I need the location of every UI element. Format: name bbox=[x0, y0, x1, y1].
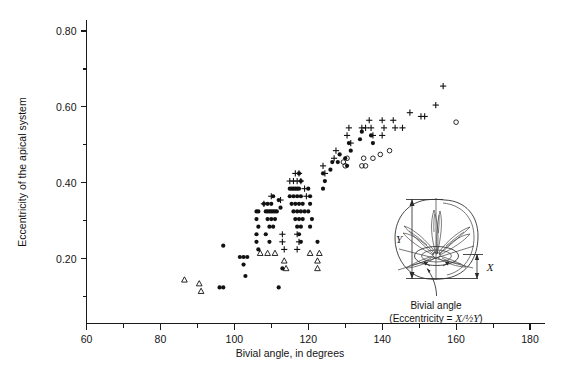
data-point-filled-circle bbox=[310, 217, 314, 221]
data-point-filled-circle bbox=[297, 202, 301, 206]
data-point-filled-circle bbox=[288, 194, 292, 198]
inset-x-label: X bbox=[486, 261, 495, 273]
data-point-filled-circle bbox=[256, 209, 260, 213]
chart-background bbox=[0, 0, 571, 375]
scatter-plot-figure: 6080100120140160180 0.200.400.600.80 Biv… bbox=[0, 0, 571, 375]
data-point-filled-circle bbox=[301, 202, 305, 206]
data-point-filled-circle bbox=[306, 209, 310, 213]
inset-caption-line1: Bivial angle bbox=[410, 300, 462, 311]
y-tick-label: 0.80 bbox=[56, 25, 77, 37]
y-tick-label: 0.20 bbox=[56, 253, 77, 265]
data-point-filled-circle bbox=[254, 217, 258, 221]
data-point-filled-circle bbox=[299, 194, 303, 198]
data-point-filled-circle bbox=[278, 206, 282, 210]
data-point-filled-circle bbox=[275, 209, 279, 213]
data-point-filled-circle bbox=[295, 209, 299, 213]
data-point-filled-circle bbox=[297, 217, 301, 221]
data-point-filled-circle bbox=[315, 240, 319, 244]
data-point-filled-circle bbox=[371, 141, 375, 145]
data-point-filled-circle bbox=[254, 232, 258, 236]
data-point-filled-circle bbox=[290, 202, 294, 206]
data-point-filled-circle bbox=[264, 232, 268, 236]
x-axis-title: Bivial angle, in degrees bbox=[236, 347, 345, 359]
y-axis-title: Eccentricity of the apical system bbox=[16, 97, 28, 247]
data-point-filled-circle bbox=[321, 187, 325, 191]
data-point-filled-circle bbox=[221, 244, 225, 248]
data-point-filled-circle bbox=[273, 217, 277, 221]
data-point-filled-circle bbox=[328, 168, 332, 172]
data-point-filled-circle bbox=[271, 225, 275, 229]
x-tick-label: 120 bbox=[299, 333, 317, 345]
data-point-filled-circle bbox=[299, 225, 303, 229]
data-point-filled-circle bbox=[295, 194, 299, 198]
data-point-filled-circle bbox=[291, 194, 295, 198]
data-point-filled-circle bbox=[301, 217, 305, 221]
inset-caption-formula: X/½Y bbox=[454, 312, 481, 324]
data-point-filled-circle bbox=[267, 225, 271, 229]
data-point-filled-circle bbox=[277, 285, 281, 289]
data-point-filled-circle bbox=[265, 217, 269, 221]
data-point-filled-circle bbox=[308, 202, 312, 206]
x-tick-label: 160 bbox=[447, 333, 465, 345]
data-point-filled-circle bbox=[243, 274, 247, 278]
data-point-filled-circle bbox=[349, 149, 353, 153]
data-point-filled-circle bbox=[256, 225, 260, 229]
data-point-filled-circle bbox=[295, 225, 299, 229]
x-tick-label: 80 bbox=[155, 333, 167, 345]
data-point-filled-circle bbox=[221, 285, 225, 289]
data-point-filled-circle bbox=[269, 217, 273, 221]
data-point-filled-circle bbox=[267, 240, 271, 244]
data-point-filled-circle bbox=[238, 255, 242, 259]
data-point-filled-circle bbox=[291, 209, 295, 213]
data-point-filled-circle bbox=[245, 255, 249, 259]
data-point-filled-circle bbox=[254, 240, 258, 244]
data-point-filled-circle bbox=[293, 217, 297, 221]
data-point-filled-circle bbox=[358, 137, 362, 141]
data-point-filled-circle bbox=[336, 160, 340, 164]
x-tick-label: 60 bbox=[81, 333, 93, 345]
data-point-filled-circle bbox=[338, 152, 342, 156]
y-tick-label: 0.60 bbox=[56, 101, 77, 113]
inset-caption-prefix: (Eccentricity = bbox=[389, 313, 455, 324]
inset-caption-suffix: ) bbox=[479, 313, 482, 324]
data-point-filled-circle bbox=[269, 202, 273, 206]
data-point-filled-circle bbox=[241, 255, 245, 259]
data-point-filled-circle bbox=[293, 202, 297, 206]
x-tick-label: 100 bbox=[226, 333, 244, 345]
data-point-filled-circle bbox=[241, 263, 245, 267]
y-tick-label: 0.40 bbox=[56, 177, 77, 189]
data-point-filled-circle bbox=[299, 209, 303, 213]
data-point-filled-circle bbox=[302, 209, 306, 213]
data-point-filled-circle bbox=[308, 225, 312, 229]
data-point-filled-circle bbox=[217, 285, 221, 289]
inset-caption-line2: (Eccentricity = X/½Y) bbox=[389, 312, 482, 324]
chart-svg: 6080100120140160180 0.200.400.600.80 Biv… bbox=[0, 0, 571, 375]
data-point-filled-circle bbox=[297, 187, 301, 191]
x-tick-label: 140 bbox=[373, 333, 391, 345]
x-tick-label: 180 bbox=[521, 333, 539, 345]
data-point-filled-circle bbox=[323, 179, 327, 183]
